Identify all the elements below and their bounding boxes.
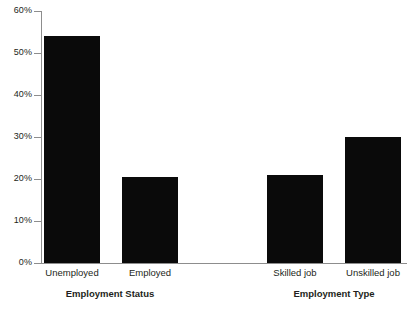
y-axis-tick-mark [34, 221, 41, 222]
y-axis-tick-mark [34, 263, 41, 264]
y-axis-tick-label-text: 30% [0, 132, 32, 141]
y-axis-tick-label-0: 0% [0, 258, 32, 267]
y-axis-tick-label-text: 40% [0, 90, 32, 99]
x-axis-category-label-unemployed: Unemployed [32, 267, 112, 278]
x-axis-category-label-employed: Employed [110, 267, 190, 278]
y-axis-tick-label-text: 20% [0, 174, 32, 183]
y-axis-tick-mark [34, 95, 41, 96]
y-axis-line [41, 11, 42, 264]
y-axis-tick-label-20: 20% [0, 174, 32, 183]
y-axis-tick-label-60: 60% [0, 6, 32, 15]
group-label-employment-type: Employment Type [264, 288, 404, 299]
bar-skilled-job [267, 175, 323, 263]
y-axis-tick-label-30: 30% [0, 132, 32, 141]
x-axis-category-label-skilled-job: Skilled job [255, 267, 335, 278]
y-axis-tick-label-40: 40% [0, 90, 32, 99]
y-axis-tick-label-text: 50% [0, 48, 32, 57]
y-axis-tick-mark [34, 179, 41, 180]
y-axis-tick-mark [34, 137, 41, 138]
y-axis-tick-label-10: 10% [0, 216, 32, 225]
y-axis-tick-label-50: 50% [0, 48, 32, 57]
y-axis-tick-mark [34, 11, 41, 12]
x-axis-category-label-unskilled-job: Unskilled job [333, 267, 413, 278]
x-axis-baseline [41, 263, 407, 264]
bar-unskilled-job [345, 137, 401, 263]
bar-employed [122, 177, 178, 263]
bar-chart: 60% 50% 40% 30% 20% 10% 0% Unemployed Em… [0, 0, 413, 310]
y-axis-tick-label-text: 10% [0, 216, 32, 225]
y-axis-tick-mark [34, 53, 41, 54]
group-label-employment-status: Employment Status [40, 288, 180, 299]
bar-unemployed [44, 36, 100, 263]
y-axis-tick-label-text: 0% [0, 258, 32, 267]
y-axis-tick-label-text: 60% [0, 6, 32, 15]
